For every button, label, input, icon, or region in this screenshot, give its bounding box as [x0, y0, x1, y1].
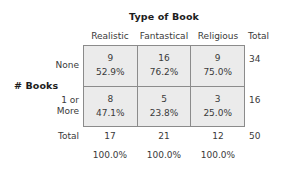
- cell-percent: 23.8%: [150, 108, 179, 119]
- cell-percent: 25.0%: [203, 108, 232, 119]
- column-header-row: Realistic Fantastical Religious: [83, 31, 245, 41]
- cell-one-or-more-realistic: 8 47.1%: [84, 87, 137, 127]
- cell-count: 3: [215, 94, 221, 105]
- column-total-religious: 12: [191, 131, 245, 141]
- column-total-realistic: 17: [83, 131, 137, 141]
- row-header-none-label: None: [56, 60, 79, 71]
- row-header-one-or-more-line2: More: [57, 106, 79, 117]
- cell-none-realistic: 9 52.9%: [84, 46, 137, 86]
- cell-count: 9: [107, 53, 113, 64]
- row-total-none: 34: [249, 54, 260, 64]
- cell-count: 5: [161, 94, 167, 105]
- column-totals-row: 17 21 12: [83, 131, 245, 141]
- cell-one-or-more-fantastical: 5 23.8%: [137, 87, 191, 127]
- cell-count: 8: [107, 94, 113, 105]
- column-percent-realistic: 100.0%: [83, 150, 137, 160]
- column-total-fantastical: 21: [137, 131, 191, 141]
- cell-one-or-more-religious: 3 25.0%: [190, 87, 244, 127]
- column-percent-fantastical: 100.0%: [137, 150, 191, 160]
- column-header-religious: Religious: [191, 31, 245, 41]
- row-variable-label: # Books: [14, 80, 58, 91]
- row-header-none: None: [56, 60, 79, 71]
- cell-percent: 47.1%: [96, 108, 125, 119]
- row-header-total: Total: [58, 131, 79, 142]
- cell-percent: 75.0%: [203, 67, 232, 78]
- chart-title: Type of Book: [83, 11, 245, 22]
- table-row-one-or-more: 8 47.1% 5 23.8% 3 25.0%: [84, 86, 244, 127]
- cell-none-religious: 9 75.0%: [190, 46, 244, 86]
- cell-percent: 76.2%: [150, 67, 179, 78]
- column-percent-row: 100.0% 100.0% 100.0%: [83, 150, 245, 160]
- column-header-total: Total: [248, 31, 269, 41]
- cell-percent: 52.9%: [96, 67, 125, 78]
- table-cell-matrix: 9 52.9% 16 76.2% 9 75.0% 8 47.1% 5 23.8%: [83, 45, 245, 127]
- column-header-realistic: Realistic: [83, 31, 137, 41]
- grand-total: 50: [249, 131, 260, 141]
- column-header-fantastical: Fantastical: [137, 31, 191, 41]
- cell-count: 9: [215, 53, 221, 64]
- contingency-table-figure: Type of Book Realistic Fantastical Relig…: [0, 0, 281, 180]
- row-header-total-label: Total: [58, 131, 79, 142]
- row-header-one-or-more-line1: 1 or: [57, 95, 79, 106]
- table-row-none: 9 52.9% 16 76.2% 9 75.0%: [84, 46, 244, 86]
- row-total-one-or-more: 16: [249, 95, 260, 105]
- cell-count: 16: [158, 53, 169, 64]
- row-header-one-or-more: 1 or More: [57, 95, 79, 117]
- cell-none-fantastical: 16 76.2%: [137, 46, 191, 86]
- column-percent-religious: 100.0%: [191, 150, 245, 160]
